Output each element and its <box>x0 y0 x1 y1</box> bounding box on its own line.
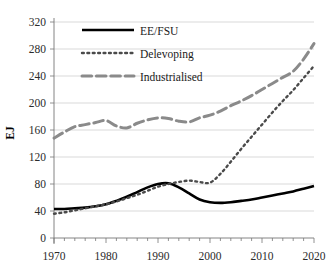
series-line-ee-fsu <box>54 183 314 209</box>
x-tick-label-1980: 1980 <box>95 250 118 262</box>
y-tick-label-320: 320 <box>29 16 47 28</box>
legend-label-delevoping: Delevoping <box>140 48 194 61</box>
y-tick-label-0: 0 <box>40 232 46 244</box>
line-chart: 04080120160200240280320 1970198019902000… <box>0 0 329 275</box>
y-tick-label-40: 40 <box>35 205 47 217</box>
x-tick-label-2010: 2010 <box>251 250 274 262</box>
y-tick-label-200: 200 <box>29 97 47 109</box>
y-axis-tick-labels: 04080120160200240280320 <box>29 16 47 244</box>
legend-label-ee-fsu: EE/FSU <box>140 25 179 37</box>
x-tick-label-1990: 1990 <box>147 250 170 262</box>
x-axis-tick-labels: 197019801990200020102020 <box>43 250 326 262</box>
x-tick-label-2000: 2000 <box>199 250 222 262</box>
y-tick-label-80: 80 <box>35 178 47 190</box>
y-tick-label-160: 160 <box>29 124 47 136</box>
data-series-group <box>54 44 314 214</box>
y-tick-label-120: 120 <box>29 151 47 163</box>
chart-container: 04080120160200240280320 1970198019902000… <box>0 0 329 275</box>
y-tick-label-240: 240 <box>29 70 47 82</box>
y-tick-label-280: 280 <box>29 43 47 55</box>
x-tick-label-2020: 2020 <box>303 250 326 262</box>
legend-label-industrialised: Industrialised <box>140 71 203 83</box>
y-axis-title: EJ <box>4 126 16 140</box>
x-tick-label-1970: 1970 <box>43 250 66 262</box>
chart-legend: EE/FSUDelevopingIndustrialised <box>82 25 203 83</box>
